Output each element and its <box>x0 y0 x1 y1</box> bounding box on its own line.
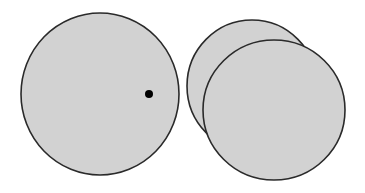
dot-marker <box>145 90 153 98</box>
overlapping-discs-group <box>187 20 345 180</box>
front-disc <box>203 40 345 180</box>
single-disc-group <box>21 13 179 175</box>
single-disc <box>21 13 179 175</box>
diagram-canvas <box>0 0 365 193</box>
